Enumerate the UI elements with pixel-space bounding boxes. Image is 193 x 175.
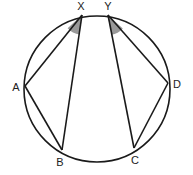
label-d: D <box>173 78 181 90</box>
label-y: Y <box>104 0 112 12</box>
segment-yc <box>108 15 134 148</box>
label-a: A <box>12 81 20 93</box>
label-x: X <box>77 0 85 12</box>
label-c: C <box>131 154 139 166</box>
label-b: B <box>56 156 63 168</box>
circle <box>24 16 170 162</box>
circle-diagram: X Y A D B C <box>0 0 193 175</box>
